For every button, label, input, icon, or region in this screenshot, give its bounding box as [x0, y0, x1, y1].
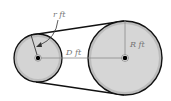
small-radius-label: r ft	[53, 10, 66, 19]
distance-label: D ft	[65, 48, 82, 57]
large-radius-label: R ft	[129, 40, 146, 49]
pulley-belt-diagram: r ft D ft R ft	[0, 0, 171, 101]
large-hub-icon	[122, 55, 129, 62]
small-hub-icon	[35, 55, 41, 61]
